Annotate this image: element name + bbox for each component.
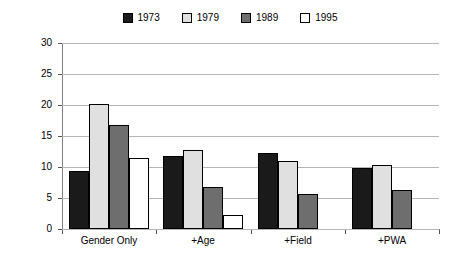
x-tick-mark bbox=[345, 230, 346, 234]
bar-1989--age[interactable] bbox=[203, 187, 223, 229]
x-axis-label-gender-only: Gender Only bbox=[62, 236, 156, 246]
legend-item-1995: 1995 bbox=[300, 13, 337, 23]
y-tick-label: 0 bbox=[30, 224, 52, 234]
plot-area bbox=[62, 43, 439, 229]
bar-group bbox=[258, 43, 338, 229]
bar-1979--pwa[interactable] bbox=[372, 165, 392, 229]
bar-1989--field[interactable] bbox=[298, 194, 318, 229]
y-tick-label: 5 bbox=[30, 193, 52, 203]
bar-1989-gender-only[interactable] bbox=[109, 125, 129, 229]
x-tick-mark bbox=[62, 230, 63, 234]
legend-label-1995: 1995 bbox=[315, 13, 337, 23]
x-tick-mark bbox=[439, 230, 440, 234]
y-tick-label: 25 bbox=[30, 69, 52, 79]
x-tick-mark bbox=[156, 230, 157, 234]
y-tick-label: 30 bbox=[30, 38, 52, 48]
legend-label-1979: 1979 bbox=[197, 13, 219, 23]
y-tick-label: 20 bbox=[30, 100, 52, 110]
x-axis-label--field: +Field bbox=[251, 236, 345, 246]
bar-1979--age[interactable] bbox=[183, 150, 203, 229]
legend-swatch-1973 bbox=[123, 13, 133, 23]
bar-1979-gender-only[interactable] bbox=[89, 104, 109, 229]
bar-group bbox=[163, 43, 243, 229]
bar-1989--pwa[interactable] bbox=[392, 190, 412, 229]
bar-1973-gender-only[interactable] bbox=[69, 171, 89, 229]
bar-group bbox=[69, 43, 149, 229]
x-axis-label--age: +Age bbox=[156, 236, 250, 246]
bar-1973--field[interactable] bbox=[258, 153, 278, 229]
legend-swatch-1989 bbox=[241, 13, 251, 23]
legend-item-1979: 1979 bbox=[182, 13, 219, 23]
bar-1979--field[interactable] bbox=[278, 161, 298, 229]
legend-swatch-1979 bbox=[182, 13, 192, 23]
x-axis-label--pwa: +PWA bbox=[345, 236, 439, 246]
y-tick-label: 10 bbox=[30, 162, 52, 172]
bar-chart: 1973 1979 1989 1995 Percent Higher Salar… bbox=[0, 0, 460, 269]
bar-1973--age[interactable] bbox=[163, 156, 183, 229]
y-tick-label: 15 bbox=[30, 131, 52, 141]
legend-label-1973: 1973 bbox=[138, 13, 160, 23]
bar-1995--age[interactable] bbox=[223, 215, 243, 229]
legend-label-1989: 1989 bbox=[256, 13, 278, 23]
legend-swatch-1995 bbox=[300, 13, 310, 23]
x-tick-mark bbox=[251, 230, 252, 234]
legend-item-1973: 1973 bbox=[123, 13, 160, 23]
legend-item-1989: 1989 bbox=[241, 13, 278, 23]
bar-1995-gender-only[interactable] bbox=[129, 158, 149, 229]
bar-group bbox=[352, 43, 432, 229]
bar-1973--pwa[interactable] bbox=[352, 168, 372, 229]
chart-legend: 1973 1979 1989 1995 bbox=[0, 13, 460, 23]
